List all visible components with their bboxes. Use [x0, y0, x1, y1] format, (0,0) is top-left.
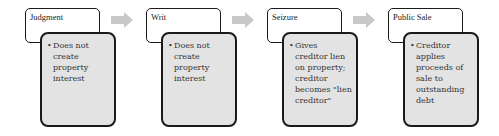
arrow-right-icon — [111, 12, 133, 28]
bullet-icon: • — [289, 40, 294, 51]
step-detail-box: • Does not create property interest — [40, 32, 116, 127]
arrow-right-icon — [353, 12, 375, 28]
process-diagram: Judgment • Does not create property inte… — [0, 0, 499, 136]
step-public-sale: Public Sale • Creditor applies proceeds … — [388, 0, 499, 136]
step-title: Writ — [151, 12, 166, 22]
step-detail: Does not create property interest — [53, 41, 89, 83]
step-detail: Creditor applies proceeds of sale to out… — [416, 41, 464, 105]
bullet-icon: • — [410, 40, 415, 51]
bullet-icon: • — [47, 40, 52, 51]
bullet-icon: • — [168, 40, 173, 51]
step-detail-box: • Gives creditor lien on property; credi… — [282, 32, 358, 127]
step-detail-box: • Creditor applies proceeds of sale to o… — [403, 32, 479, 127]
step-title: Seizure — [272, 12, 298, 22]
step-title: Public Sale — [393, 12, 431, 22]
step-detail-box: • Does not create property interest — [161, 32, 237, 127]
step-title: Judgment — [30, 12, 63, 22]
arrow-right-icon — [232, 12, 254, 28]
step-detail: Gives creditor lien on property; credito… — [295, 41, 352, 105]
step-detail: Does not create property interest — [174, 41, 210, 83]
